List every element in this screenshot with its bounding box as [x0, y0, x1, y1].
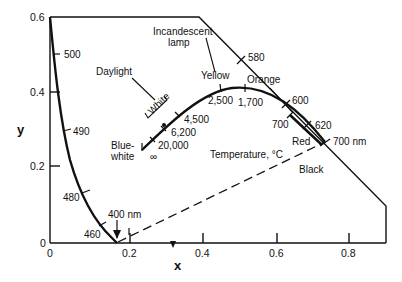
x-axis-title: x — [174, 258, 182, 273]
wavelength-480: 480 — [63, 192, 80, 203]
incandescent-leader — [206, 38, 215, 72]
temperature-2500: 2,500 — [208, 95, 233, 106]
wavelength-460: 460 — [84, 229, 101, 240]
x-tick-label-0: 0 — [47, 247, 53, 259]
temperature-20000: 20,000 — [158, 140, 189, 151]
wavelength-620: 620 — [315, 120, 332, 131]
temperature-6200: 6,200 — [171, 127, 196, 138]
wavelength-400nm: 400 nm — [108, 209, 141, 220]
nm400-arrow-icon — [113, 230, 121, 239]
label-blue-white-2: white — [110, 151, 135, 162]
wavelength-490: 490 — [73, 126, 90, 137]
orange-leader — [270, 88, 292, 112]
label-orange: Orange — [247, 74, 281, 85]
temperature-infinity: ∞ — [150, 151, 157, 162]
label-black: Black — [299, 164, 324, 175]
temperature-1700: 1,700 — [238, 97, 263, 108]
x-tick-label-0.8: 0.8 — [341, 247, 356, 259]
x-tick-label-0.6: 0.6 — [269, 247, 284, 259]
x-axis-marker-icon — [170, 241, 176, 248]
wavelength-700nm: 700 nm — [333, 136, 366, 147]
label-blue-white-1: Blue- — [111, 140, 134, 151]
y-axis-title: y — [17, 122, 25, 137]
x-tick-label-0.2: 0.2 — [122, 247, 137, 259]
label-temperature: Temperature, °C — [210, 149, 283, 160]
wavelength-500: 500 — [64, 49, 81, 60]
y-tick-label-0: 0 — [40, 237, 46, 249]
wavelength-600: 600 — [292, 95, 309, 106]
axes — [50, 17, 386, 243]
temperature-700: 700 — [272, 119, 289, 130]
label-incandescent-2: lamp — [168, 37, 190, 48]
wavelength-580: 580 — [248, 52, 265, 63]
y-tick-label-0.6: 0.6 — [30, 11, 45, 23]
temperature-4500: 4,500 — [184, 114, 209, 125]
x-tick-label-0.4: 0.4 — [195, 247, 210, 259]
y-tick-label-0.4: 0.4 — [30, 86, 45, 98]
daylight-leader — [132, 78, 155, 100]
spectral-locus-red — [283, 222, 318, 258]
chromaticity-diagram: 0.6 0.4 0.2 0 0 0.2 0.4 0.6 0.8 y x 500 … — [0, 0, 402, 282]
label-red: Red — [292, 136, 310, 147]
label-incandescent-1: Incandescent — [153, 26, 213, 37]
label-yellow: Yellow — [201, 70, 230, 81]
label-daylight: Daylight — [96, 66, 132, 77]
y-tick-label-0.2: 0.2 — [30, 160, 45, 172]
gamut-boundary — [50, 17, 386, 243]
daylight-point — [162, 123, 166, 127]
